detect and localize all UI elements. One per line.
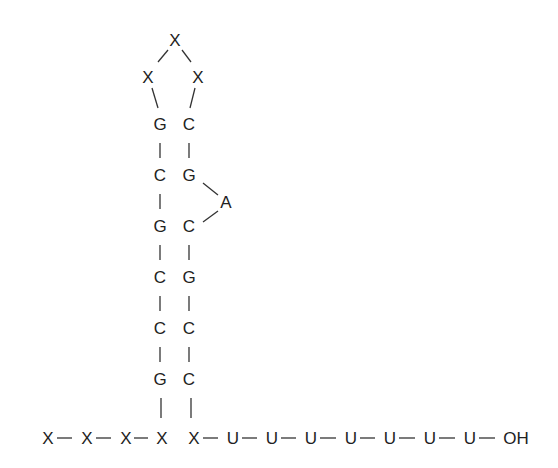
nucleotide-strand-3prime: U [424, 430, 436, 447]
nucleotide-strand-5prime: X [120, 430, 131, 447]
nucleotide-strand-5prime: X [156, 430, 167, 447]
bond-lines [0, 0, 558, 468]
nucleotide-strand-3prime: X [188, 430, 199, 447]
nucleotide-strand-3prime: U [464, 430, 476, 447]
nucleotide-strand-3prime: U [305, 430, 317, 447]
rna-hairpin-diagram: XXXGCGCCGCGCGCCXXXXXUUUUUUUOHA [0, 0, 558, 468]
nucleotide-strand-5prime: X [81, 430, 92, 447]
nucleotide-loop: X [142, 69, 153, 86]
nucleotide-loop: X [169, 32, 180, 49]
nucleotide-loop: X [192, 69, 203, 86]
nucleotide-strand-5prime: X [42, 430, 53, 447]
nucleotide-stem-left: G [153, 371, 166, 388]
nucleotide-stem-left: G [153, 116, 166, 133]
nucleotide-stem-right: G [182, 167, 195, 184]
nucleotide-stem-left: C [154, 320, 166, 337]
nucleotide-strand-3prime: OH [503, 430, 529, 447]
nucleotide-strand-3prime: U [266, 430, 278, 447]
nucleotide-stem-left: G [153, 218, 166, 235]
nucleotide-bulge: A [220, 194, 231, 211]
nucleotide-stem-left: C [154, 167, 166, 184]
nucleotide-strand-3prime: U [227, 430, 239, 447]
nucleotide-strand-3prime: U [384, 430, 396, 447]
nucleotide-stem-right: G [182, 269, 195, 286]
nucleotide-strand-3prime: U [345, 430, 357, 447]
nucleotide-stem-right: C [183, 320, 195, 337]
nucleotide-stem-left: C [154, 269, 166, 286]
nucleotide-stem-right: C [183, 371, 195, 388]
nucleotide-stem-right: C [183, 116, 195, 133]
nucleotide-stem-right: C [183, 218, 195, 235]
